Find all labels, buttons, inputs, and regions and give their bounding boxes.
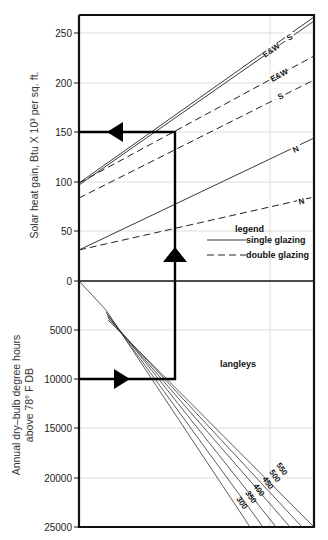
legend-single-label: single glazing: [246, 235, 306, 245]
tick-50: 50: [61, 226, 73, 237]
legend-title: legend: [235, 224, 264, 234]
tick-15000: 15000: [44, 423, 72, 434]
legend: legend single glazing double glazing: [207, 224, 309, 260]
lower-y-tick-labels: 5000 10000 15000 20000 25000: [44, 325, 72, 533]
chart-figure: 250 200 150 100 50 0 5000 10000 15000 20…: [0, 0, 328, 540]
langleys-label: langleys: [220, 359, 256, 369]
tick-5000: 5000: [50, 325, 73, 336]
lower-y-axis-title-line1: Annual dry–bulb degree hours: [10, 335, 22, 476]
tick-150: 150: [55, 127, 72, 138]
tick-200: 200: [55, 78, 72, 89]
label-ew-double: E&W: [269, 67, 290, 84]
fan-labels: 300 350 400 450 500 550: [234, 461, 289, 512]
lower-series: [79, 281, 314, 527]
series-300: [106, 310, 250, 527]
upper-series-labels: E&W S E&W S N N: [261, 32, 306, 207]
tick-10000: 10000: [44, 374, 72, 385]
series-550: [108, 320, 314, 527]
upper-y-axis-title: Solar heat gain, Btu X 10³ per sq. ft.: [28, 72, 40, 239]
arrow-right-icon: [114, 369, 130, 389]
tick-20000: 20000: [44, 473, 72, 484]
legend-double-label: double glazing: [246, 250, 309, 260]
upper-y-tick-labels: 250 200 150 100 50 0: [55, 28, 72, 287]
tick-250: 250: [55, 28, 72, 39]
series-n-single: [79, 138, 314, 250]
label-ew-single: E&W: [261, 41, 282, 59]
tick-100: 100: [55, 177, 72, 188]
arrow-up-icon: [163, 247, 187, 262]
tick-25000: 25000: [44, 522, 72, 533]
tick-0: 0: [66, 276, 72, 287]
fan-lead-line: [79, 281, 106, 310]
lower-y-axis-title-line2: above 78° F DB: [23, 368, 35, 442]
series-350: [106, 312, 263, 527]
arrow-left-icon: [107, 122, 123, 142]
